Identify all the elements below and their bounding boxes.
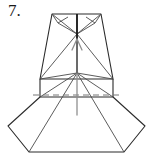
origami-figure	[0, 0, 153, 166]
crease-node-to-left-band	[40, 73, 77, 97]
crease-node-to-right-band	[77, 73, 113, 97]
origami-diagram-page: 7.	[0, 0, 153, 166]
crease-node-to-bottom-left	[29, 73, 77, 152]
crease-left-shoulder-to-node	[40, 73, 77, 79]
crease-top-left-diagonal	[52, 14, 77, 34]
crease-right-shoulder-to-node	[77, 73, 113, 79]
fold-arrow	[72, 39, 82, 115]
crease-apex-to-left-shoulder	[40, 34, 77, 79]
crease-apex-to-right-shoulder	[77, 34, 113, 79]
crease-top-right-diagonal	[77, 14, 101, 34]
crease-node-to-bottom-right	[77, 73, 124, 152]
